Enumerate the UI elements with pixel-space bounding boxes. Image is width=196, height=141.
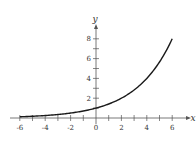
chart: -6-4-202462468xy [0, 0, 196, 141]
y-axis-arrow-icon [94, 24, 98, 29]
y-axis-label: y [91, 14, 98, 24]
x-tick-label: -2 [67, 124, 74, 132]
x-tick-label: 6 [170, 124, 175, 132]
x-tick-label: 4 [145, 124, 150, 132]
x-tick-label: -4 [42, 124, 49, 132]
y-tick-label: 2 [87, 95, 91, 103]
x-tick-label: 2 [119, 124, 123, 132]
y-tick-label: 4 [87, 75, 92, 83]
x-tick-label: -6 [16, 124, 23, 132]
x-axis-label: x [190, 113, 195, 123]
x-tick-label: 0 [94, 124, 98, 132]
plot-area: -6-4-202462468xy [0, 0, 196, 141]
y-tick-label: 6 [87, 55, 92, 63]
y-tick-label: 8 [87, 35, 91, 43]
